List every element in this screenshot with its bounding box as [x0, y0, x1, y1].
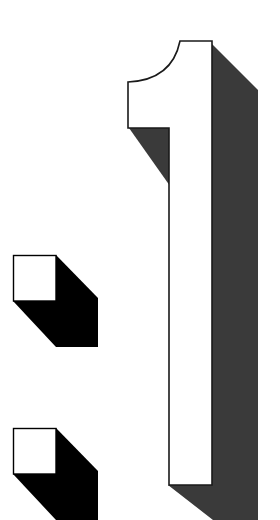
- colon-dot-lower: [13, 428, 98, 520]
- colon-dot-upper: [13, 255, 98, 347]
- digit-one-face: [128, 41, 212, 485]
- graphic-svg: [0, 0, 280, 520]
- numeral-graphic: 1:: [0, 0, 280, 520]
